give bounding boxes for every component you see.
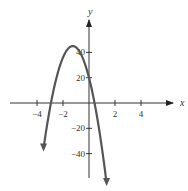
y-tick-label: −40 xyxy=(71,149,86,159)
parabola-chart: xy −4−2244020−20−40 xyxy=(0,0,188,191)
parabola-curve xyxy=(40,46,110,186)
curve-arrow-right xyxy=(103,178,110,186)
parabola-path xyxy=(44,46,107,183)
x-axis-label: x xyxy=(179,97,185,108)
x-tick-label: 2 xyxy=(113,109,118,119)
y-tick-label: −20 xyxy=(71,123,86,133)
y-tick-label: 20 xyxy=(76,73,86,83)
x-tick-label: −2 xyxy=(58,109,68,119)
y-axis-label: y xyxy=(87,6,93,17)
curve-arrow-left xyxy=(40,144,47,152)
x-tick-label: 4 xyxy=(139,109,144,119)
axes: xy xyxy=(10,6,185,178)
x-tick-label: −4 xyxy=(32,109,42,119)
